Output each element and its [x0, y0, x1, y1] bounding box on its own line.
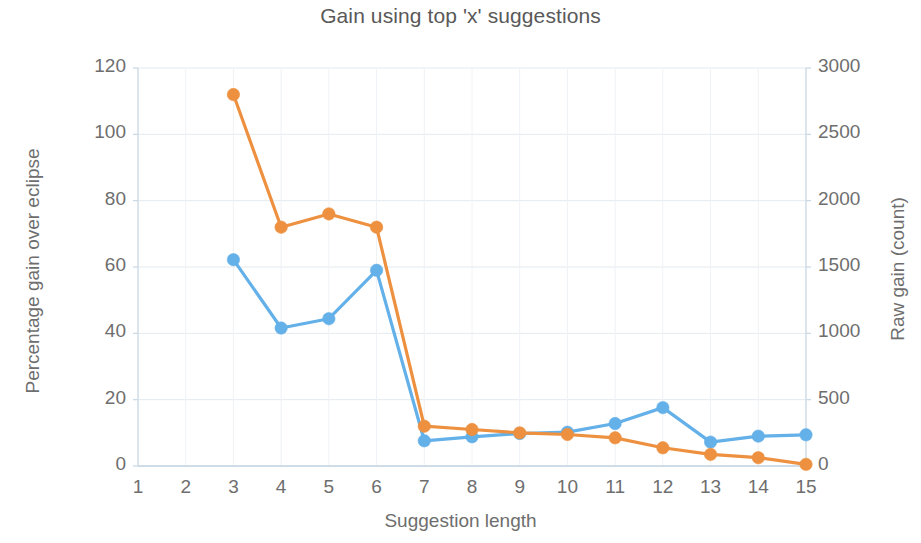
chart-container: Gain using top 'x' suggestions 020406080…: [0, 0, 921, 543]
data-point-marker: [800, 429, 812, 441]
y-axis-left-tick-labels: 020406080100120: [0, 0, 126, 543]
data-point-marker: [466, 423, 478, 435]
x-axis-tick-label: 15: [795, 476, 816, 498]
x-axis-tick-label: 6: [371, 476, 382, 498]
plot-area: [138, 68, 806, 466]
x-axis-tick-label: 10: [557, 476, 578, 498]
y-axis-right-tick-label: 2000: [818, 188, 860, 210]
data-point-marker: [657, 401, 669, 413]
x-axis-tick-labels: 123456789101112131415: [138, 476, 806, 504]
y-axis-left-tick-label: 40: [105, 320, 126, 342]
x-axis-title: Suggestion length: [0, 510, 921, 532]
data-point-marker: [514, 427, 526, 439]
y-axis-left-title: Percentage gain over eclipse: [22, 91, 44, 451]
data-point-marker: [704, 448, 716, 460]
data-point-marker: [752, 452, 764, 464]
x-axis-tick-label: 13: [700, 476, 721, 498]
x-axis-tick-label: 5: [324, 476, 335, 498]
y-axis-right-tick-label: 500: [818, 387, 850, 409]
y-axis-right-tick-labels: 050010001500200025003000: [818, 0, 888, 543]
x-axis-tick-label: 12: [652, 476, 673, 498]
data-point-marker: [275, 322, 287, 334]
data-point-marker: [800, 458, 812, 470]
plot-svg: [138, 68, 806, 466]
data-point-marker: [370, 221, 382, 233]
y-axis-right-tick-label: 3000: [818, 55, 860, 77]
y-axis-left-tick-label: 120: [94, 55, 126, 77]
y-axis-left-tick-label: 60: [105, 254, 126, 276]
x-axis-tick-label: 4: [276, 476, 287, 498]
data-point-marker: [323, 208, 335, 220]
data-point-marker: [609, 417, 621, 429]
data-point-marker: [704, 436, 716, 448]
y-axis-right-tick-label: 0: [818, 453, 829, 475]
x-axis-tick-label: 9: [514, 476, 525, 498]
y-axis-right-title: Raw gain (count): [887, 89, 909, 449]
chart-title: Gain using top 'x' suggestions: [0, 4, 921, 28]
y-axis-left-tick-label: 0: [115, 453, 126, 475]
data-point-marker: [752, 430, 764, 442]
data-point-marker: [418, 420, 430, 432]
y-axis-right-tick-label: 1000: [818, 320, 860, 342]
y-axis-right-tick-label: 1500: [818, 254, 860, 276]
x-axis-tick-label: 8: [467, 476, 478, 498]
x-axis-tick-label: 11: [605, 476, 625, 498]
data-point-marker: [323, 313, 335, 325]
x-axis-tick-label: 3: [228, 476, 239, 498]
data-point-marker: [657, 442, 669, 454]
y-axis-right-tick-label: 2500: [818, 121, 860, 143]
y-axis-left-tick-label: 100: [94, 121, 126, 143]
data-point-marker: [275, 221, 287, 233]
data-point-marker: [418, 435, 430, 447]
x-axis-tick-label: 7: [419, 476, 430, 498]
data-point-marker: [227, 88, 239, 100]
data-point-marker: [561, 428, 573, 440]
data-point-marker: [609, 432, 621, 444]
y-axis-left-tick-label: 20: [105, 387, 126, 409]
data-point-marker: [227, 254, 239, 266]
x-axis-tick-label: 2: [180, 476, 191, 498]
y-axis-left-tick-label: 80: [105, 188, 126, 210]
x-axis-tick-label: 1: [133, 476, 144, 498]
data-point-marker: [370, 264, 382, 276]
x-axis-tick-label: 14: [748, 476, 769, 498]
